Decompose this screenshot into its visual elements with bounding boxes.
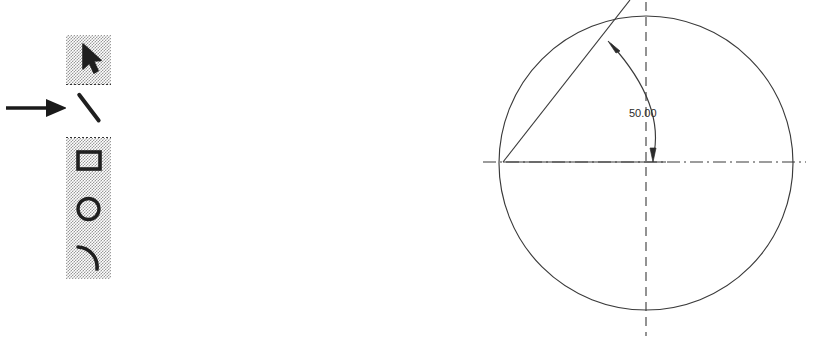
- figure-canvas: 50.00: [0, 0, 817, 338]
- angular-dimension-drawing: 50.00: [470, 0, 817, 338]
- rectangle-icon: [66, 138, 111, 185]
- palette-group-shapes: [66, 138, 111, 279]
- tool-button-rectangle[interactable]: [66, 138, 111, 185]
- tool-button-line[interactable]: [66, 85, 111, 138]
- dimension-arc: [611, 44, 655, 158]
- drawing-tool-palette[interactable]: [66, 35, 111, 279]
- pointer-arrow-icon: [66, 35, 111, 82]
- tool-button-select[interactable]: [66, 35, 111, 82]
- radius-line: [503, 0, 630, 162]
- line-icon: [66, 85, 111, 132]
- dimension-arrowhead-lower: [650, 148, 656, 162]
- arc-icon: [66, 233, 111, 280]
- dimension-arrowhead-upper: [608, 41, 620, 53]
- circle-icon: [66, 186, 111, 233]
- tool-button-circle[interactable]: [66, 186, 111, 233]
- tool-button-arc[interactable]: [66, 233, 111, 280]
- callout-arrow-icon: [4, 93, 68, 123]
- palette-group-selection: [66, 35, 111, 85]
- dimension-label: 50.00: [629, 107, 657, 119]
